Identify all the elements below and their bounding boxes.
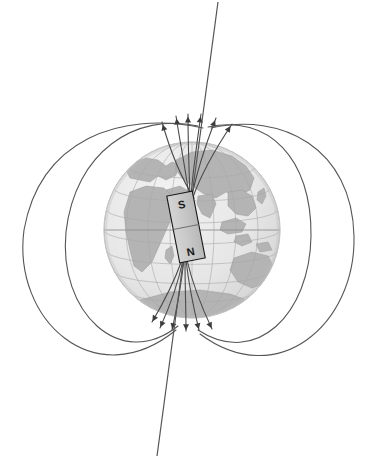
field-arrowhead-bottom [194,323,201,330]
earth-magnetic-field-figure: S N [0,0,373,464]
field-arrowhead-top [185,116,191,122]
field-arrowhead-top [160,124,167,131]
field-arrowhead-bottom [150,315,158,323]
field-arrowhead-bottom [206,322,214,330]
field-diagram-canvas: S N [0,0,373,464]
field-arrowhead-bottom [158,321,166,329]
field-arrowhead-bottom [183,324,189,330]
field-arrowheads-top [160,116,233,133]
island-new-zealand [282,284,290,296]
